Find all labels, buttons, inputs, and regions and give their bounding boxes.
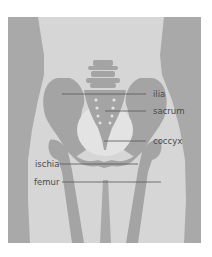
label-coccyx: coccyx — [153, 136, 182, 146]
label-sacrum: sacrum — [153, 106, 184, 116]
pelvis-diagram: ilia sacrum coccyx ischia femur — [0, 0, 212, 257]
label-ischia: ischia — [35, 159, 59, 169]
label-femur: femur — [34, 177, 60, 187]
label-ilia: ilia — [153, 89, 165, 99]
